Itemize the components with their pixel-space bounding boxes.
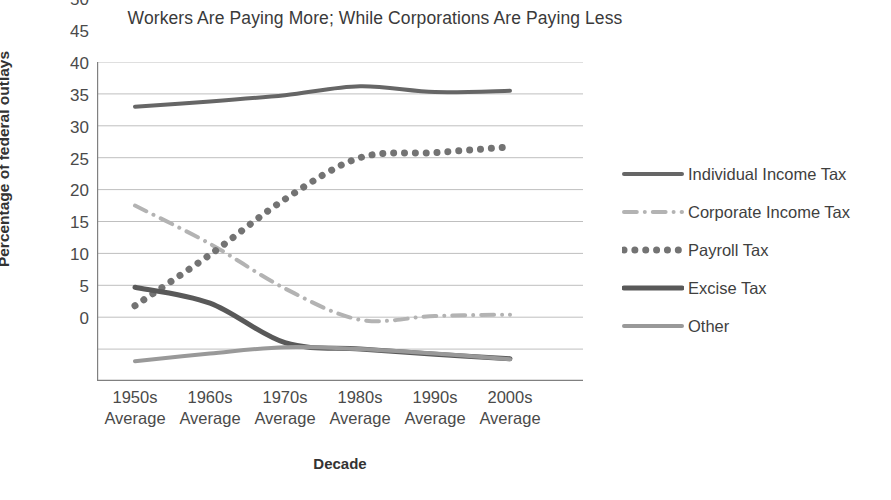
x-axis-tick-label: 2000sAverage — [465, 387, 555, 429]
legend-swatch-icon — [622, 204, 684, 220]
y-axis-tick-label: 50 — [29, 0, 89, 8]
y-axis-tick-label: 45 — [29, 23, 89, 40]
x-tick-decade: 2000s — [488, 388, 533, 406]
chart-container: Workers Are Paying More; While Corporati… — [0, 0, 891, 500]
y-axis-tick-label: 40 — [29, 55, 89, 72]
legend-item[interactable]: Other — [622, 307, 887, 345]
legend-item-label: Excise Tax — [684, 279, 767, 298]
y-axis-tick-label: 20 — [29, 182, 89, 199]
legend-item-label: Payroll Tax — [684, 241, 768, 260]
legend-swatch-icon — [622, 166, 684, 182]
legend-item[interactable]: Excise Tax — [622, 269, 887, 307]
y-axis-tick-label: 10 — [29, 246, 89, 263]
plot-svg — [97, 62, 583, 381]
legend-item[interactable]: Corporate Income Tax — [622, 193, 887, 231]
legend-item[interactable]: Payroll Tax — [622, 231, 887, 269]
legend-swatch-icon — [622, 242, 684, 258]
legend-item-label: Corporate Income Tax — [684, 203, 850, 222]
x-axis-tick-labels: 1950sAverage1960sAverage1970sAverage1980… — [97, 387, 583, 447]
x-tick-decade: 1950s — [113, 388, 158, 406]
y-axis-tick-label: 0 — [29, 310, 89, 327]
y-axis-tick-label: 15 — [29, 214, 89, 231]
legend-item-label: Other — [684, 317, 729, 336]
series-line — [135, 206, 510, 322]
plot-area: 1950sAverage1960sAverage1970sAverage1980… — [97, 62, 583, 381]
y-axis-tick-labels: 50454035302520151050 — [0, 0, 97, 319]
chart-title: Workers Are Paying More; While Corporati… — [0, 8, 750, 29]
y-axis-tick-label: 25 — [29, 151, 89, 168]
chart-legend: Individual Income TaxCorporate Income Ta… — [622, 155, 887, 345]
series-line — [135, 147, 510, 306]
x-tick-decade: 1960s — [188, 388, 233, 406]
y-axis-tick-label: 35 — [29, 87, 89, 104]
x-tick-average: Average — [465, 408, 555, 429]
legend-item-label: Individual Income Tax — [684, 165, 846, 184]
legend-swatch-icon — [622, 280, 684, 296]
x-axis-title: Decade — [97, 455, 583, 472]
y-axis-tick-label: 30 — [29, 119, 89, 136]
x-tick-decade: 1990s — [413, 388, 458, 406]
legend-item[interactable]: Individual Income Tax — [622, 155, 887, 193]
legend-swatch-icon — [622, 318, 684, 334]
y-axis-tick-label: 5 — [29, 278, 89, 295]
x-tick-decade: 1980s — [338, 388, 383, 406]
x-tick-decade: 1970s — [263, 388, 308, 406]
series-line — [135, 86, 510, 106]
